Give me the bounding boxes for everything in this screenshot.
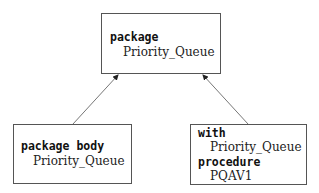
client-node: with Priority_Queue procedure PQAV1 [190,124,307,185]
body-keyword: package body [21,139,104,154]
client-procedure-keyword: procedure [198,155,260,170]
spec-node: package Priority_Queue [101,13,221,74]
body-identifier: Priority_Queue [33,154,125,169]
spec-identifier: Priority_Queue [123,45,215,60]
body-node: package body Priority_Queue [13,124,132,184]
client-with-keyword: with [198,126,226,141]
spec-keyword: package [110,30,158,45]
client-procedure-identifier: PQAV1 [210,169,252,184]
arrow-client-to-spec [203,75,248,124]
client-with-identifier: Priority_Queue [210,140,302,155]
arrow-body-to-spec [73,75,118,124]
